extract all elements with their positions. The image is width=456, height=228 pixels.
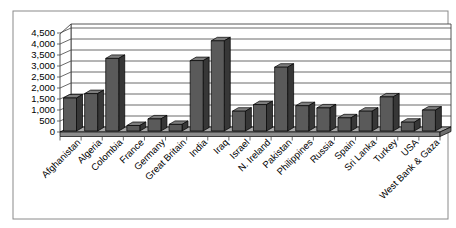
- y-axis-tick-label: 3,000: [31, 60, 55, 71]
- bar-side-face: [309, 102, 315, 131]
- bar-side-face: [267, 101, 273, 131]
- y-axis-tick-label: 2,000: [31, 82, 55, 93]
- bar-side-face: [77, 95, 83, 132]
- bar-side-face: [119, 55, 125, 131]
- floor-front: [60, 132, 440, 137]
- y-axis-tick-label: 4,500: [31, 27, 55, 38]
- bar-side-face: [224, 37, 230, 131]
- bar: [106, 58, 119, 131]
- bar: [169, 124, 182, 131]
- bar: [127, 126, 140, 132]
- bar: [190, 61, 203, 131]
- bar-chart-3d: 05001,0001,5002,0002,5003,0003,5004,0004…: [0, 0, 456, 228]
- bar: [338, 118, 351, 131]
- bar: [64, 98, 77, 131]
- bar-side-face: [288, 64, 294, 131]
- bar: [359, 111, 372, 131]
- bar: [232, 111, 245, 131]
- bar-side-face: [203, 57, 209, 131]
- bar: [317, 108, 330, 131]
- bar: [380, 97, 393, 131]
- bar-side-face: [98, 90, 104, 131]
- bar: [211, 41, 224, 131]
- bar: [422, 110, 435, 131]
- bar-side-face: [330, 104, 336, 131]
- bar: [254, 105, 267, 131]
- bar: [85, 94, 98, 131]
- y-axis-tick-label: 500: [39, 115, 55, 126]
- bar: [296, 106, 309, 131]
- y-axis-tick-label: 0: [50, 126, 55, 137]
- bar-side-face: [245, 108, 251, 131]
- bar-side-face: [435, 107, 441, 131]
- bar-side-face: [393, 93, 399, 131]
- y-axis-tick-label: 2,500: [31, 71, 55, 82]
- bar-side-face: [372, 108, 378, 131]
- y-axis-tick-label: 1,000: [31, 104, 55, 115]
- y-axis-tick-label: 4,000: [31, 38, 55, 49]
- bar: [148, 119, 161, 131]
- y-axis-tick-label: 1,500: [31, 93, 55, 104]
- bar: [275, 67, 288, 131]
- chart-area: 05001,0001,5002,0002,5003,0003,5004,0004…: [0, 0, 456, 228]
- y-axis-tick-label: 3,500: [31, 49, 55, 60]
- bar: [401, 122, 414, 131]
